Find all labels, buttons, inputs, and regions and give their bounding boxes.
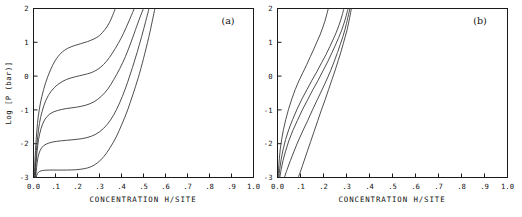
- panel-b-ytick-3: -1: [264, 106, 273, 115]
- panel-a-ytick-4: -2: [20, 139, 29, 148]
- panel-b-xtick-8: .8: [457, 182, 466, 191]
- panel-b-curves: [278, 9, 351, 178]
- panel-b-xtick-0: 0.0: [271, 182, 284, 191]
- panel-b: 0.0.1.2.3.4.5.6.7.8.91.0210-1-2-3 (b) CO…: [262, 0, 522, 217]
- panel-b-xtick-9: .9: [480, 182, 489, 191]
- panel-a-curve-1: [34, 9, 115, 178]
- panel-b-curve-3: [280, 9, 348, 178]
- panel-b-ytick-5: -3: [264, 173, 273, 182]
- panel-a-curve-5: [36, 9, 155, 178]
- panel-b-xtick-5: .5: [388, 182, 397, 191]
- panel-a-ytick-2: 0: [24, 72, 28, 81]
- figure-two-panel-isotherm-plot: Log [P (bar)] 0.0.1.2.3.4.5.6.7.8.91.021…: [0, 0, 522, 217]
- panel-a-ytick-3: -1: [20, 106, 29, 115]
- panel-b-frame: [278, 9, 508, 178]
- panel-a-yaxis-label: Log [P (bar)]: [4, 61, 13, 124]
- panel-a-curve-2: [35, 9, 134, 178]
- panel-b-label: (b): [473, 15, 487, 26]
- panel-a-xtick-1: .1: [51, 182, 60, 191]
- panel-b-xtick-6: .6: [411, 182, 420, 191]
- panel-a-svg: Log [P (bar)] 0.0.1.2.3.4.5.6.7.8.91.021…: [0, 0, 262, 217]
- panel-a-xtick-7: .7: [183, 182, 192, 191]
- panel-b-xtick-7: .7: [434, 182, 443, 191]
- panel-a-curves: [34, 9, 155, 178]
- panel-b-xtick-10: 1.0: [501, 182, 514, 191]
- panel-b-xaxis-label: CONCENTRATION H/SITE: [339, 195, 446, 204]
- panel-b-xtick-2: .2: [319, 182, 328, 191]
- panel-a-curve-3: [35, 9, 143, 178]
- panel-b-ytick-4: -2: [264, 139, 273, 148]
- panel-a-xtick-3: .3: [95, 182, 104, 191]
- panel-a-xtick-9: .9: [227, 182, 236, 191]
- panel-a-curve-4: [36, 9, 149, 178]
- panel-a-xaxis-label: CONCENTRATION H/SITE: [90, 195, 197, 204]
- panel-a-ytick-5: -3: [20, 173, 29, 182]
- panel-a-ytick-0: 2: [24, 4, 28, 13]
- panel-b-ticklabels: 0.0.1.2.3.4.5.6.7.8.91.0210-1-2-3: [264, 4, 514, 190]
- panel-a-xtick-2: .2: [73, 182, 82, 191]
- panel-b-xtick-3: .3: [342, 182, 351, 191]
- panel-a-ticklabels: 0.0.1.2.3.4.5.6.7.8.91.0210-1-2-3: [20, 4, 260, 190]
- panel-b-ytick-0: 2: [268, 4, 272, 13]
- panel-a-xtick-10: 1.0: [247, 182, 260, 191]
- panel-a-xtick-8: .8: [205, 182, 214, 191]
- panel-a: Log [P (bar)] 0.0.1.2.3.4.5.6.7.8.91.021…: [0, 0, 262, 217]
- panel-b-ytick-1: 1: [268, 38, 272, 47]
- panel-a-xtick-0: 0.0: [27, 182, 40, 191]
- panel-a-ticks: [34, 9, 254, 178]
- panel-a-frame: [34, 9, 254, 178]
- panel-b-xtick-1: .1: [296, 182, 305, 191]
- panel-a-xtick-5: .5: [139, 182, 148, 191]
- panel-b-xtick-4: .4: [365, 182, 374, 191]
- panel-a-yaxis-label-group: Log [P (bar)]: [4, 61, 13, 124]
- panel-b-ytick-2: 0: [268, 72, 272, 81]
- panel-a-xtick-6: .6: [161, 182, 170, 191]
- panel-b-svg: 0.0.1.2.3.4.5.6.7.8.91.0210-1-2-3 (b) CO…: [262, 0, 522, 217]
- panel-b-ticks: [278, 9, 508, 178]
- panel-a-xtick-4: .4: [117, 182, 126, 191]
- panel-a-ytick-1: 1: [24, 38, 28, 47]
- panel-a-label: (a): [221, 15, 234, 26]
